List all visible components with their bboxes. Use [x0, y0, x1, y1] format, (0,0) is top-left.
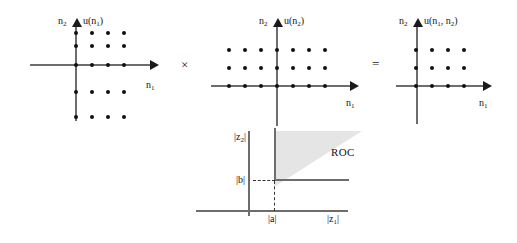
panel1-vertical-axis-arrow [72, 18, 82, 27]
data-point [106, 90, 110, 94]
data-point [291, 84, 295, 88]
data-point [227, 66, 231, 70]
roc-magnitude-a-label: |a| [268, 214, 276, 224]
data-point [275, 48, 279, 52]
roc-boundary-vertical [274, 128, 276, 180]
data-point [106, 31, 110, 35]
data-point [323, 66, 327, 70]
data-point [307, 48, 311, 52]
data-point [122, 115, 126, 119]
data-point [90, 31, 94, 35]
panel3-horizontal-axis-label: n1 [479, 98, 488, 108]
data-point [462, 48, 466, 52]
panel2-horizontal-axis-label: n1 [346, 98, 355, 108]
data-point [259, 66, 263, 70]
roc-region-label: ROC [331, 146, 355, 158]
data-point [430, 48, 434, 52]
data-point [122, 90, 126, 94]
panel2-horizontal-axis [211, 85, 352, 87]
panel2-function-label: u(n2) [284, 16, 304, 26]
data-point [74, 63, 78, 67]
panel3-horizontal-axis-arrow [483, 81, 492, 91]
panel2-vertical-axis [276, 26, 278, 126]
data-point [462, 66, 466, 70]
data-point [259, 48, 263, 52]
multiply-operator: × [181, 58, 188, 71]
data-point [90, 44, 94, 48]
data-point [430, 66, 434, 70]
roc-horizontal-axis-label: |z1| [327, 214, 339, 224]
data-point [106, 115, 110, 119]
figure-canvas: n2 u(n1) n1 × [0, 0, 517, 243]
data-point [227, 48, 231, 52]
data-point [275, 66, 279, 70]
data-point [122, 31, 126, 35]
roc-boundary-horizontal [274, 179, 349, 181]
data-point [430, 84, 434, 88]
data-point [74, 44, 78, 48]
data-point [414, 84, 418, 88]
panel3-function-label: u(n1, n2) [424, 16, 458, 26]
data-point [414, 48, 418, 52]
panel1-vertical-axis-label: n2 [58, 16, 67, 26]
panel2-vertical-axis-arrow [273, 18, 283, 27]
roc-magnitude-b-label: |b| [236, 175, 245, 185]
data-point [414, 66, 418, 70]
roc-dashed-vertical-guide [274, 181, 275, 211]
data-point [106, 44, 110, 48]
data-point [243, 66, 247, 70]
panel1-horizontal-axis-arrow [150, 60, 159, 70]
data-point [291, 48, 295, 52]
roc-vertical-axis [248, 131, 250, 216]
panel2-horizontal-axis-arrow [350, 81, 359, 91]
data-point [462, 84, 466, 88]
data-point [227, 84, 231, 88]
data-point [307, 84, 311, 88]
data-point [90, 115, 94, 119]
data-point [122, 44, 126, 48]
panel1-horizontal-axis-label: n1 [146, 80, 155, 90]
panel1-function-label: u(n1) [83, 16, 103, 26]
equals-operator: = [372, 57, 379, 70]
data-point [323, 84, 327, 88]
data-point [122, 63, 126, 67]
data-point [243, 48, 247, 52]
data-point [90, 63, 94, 67]
panel3-vertical-axis-arrow [413, 18, 423, 27]
panel2-vertical-axis-label: n2 [259, 16, 268, 26]
roc-dashed-horizontal-guide [253, 180, 275, 181]
data-point [291, 66, 295, 70]
data-point [74, 115, 78, 119]
data-point [275, 84, 279, 88]
data-point [446, 48, 450, 52]
data-point [446, 66, 450, 70]
panel3-vertical-axis [416, 26, 418, 124]
data-point [446, 84, 450, 88]
data-point [74, 90, 78, 94]
data-point [74, 31, 78, 35]
panel3-horizontal-axis [396, 85, 485, 87]
roc-vertical-axis-label: |z2| [234, 132, 246, 142]
data-point [259, 84, 263, 88]
panel1-vertical-axis [75, 26, 77, 121]
panel3-vertical-axis-label: n2 [399, 16, 408, 26]
data-point [323, 48, 327, 52]
data-point [243, 84, 247, 88]
data-point [106, 63, 110, 67]
data-point [90, 90, 94, 94]
roc-horizontal-axis [196, 210, 348, 212]
data-point [307, 66, 311, 70]
